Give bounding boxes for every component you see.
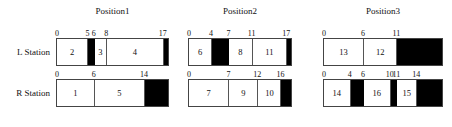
row-label-l-station: L Station [0, 47, 50, 58]
job-segment: 2 [57, 39, 88, 65]
gantt-bar: 234 [56, 38, 169, 66]
job-segment: 15 [397, 80, 417, 106]
job-label: 11 [265, 47, 273, 57]
axis-ticks: 0611 [323, 25, 443, 38]
idle-segment [351, 80, 364, 106]
gantt-bar: 7910 [188, 79, 292, 107]
job-segment: 4 [107, 39, 164, 65]
axis-tick-label: 0 [322, 70, 326, 79]
group-title: Position1 [56, 6, 169, 17]
axis-tick-label: 11 [392, 70, 400, 79]
axis-tick-label: 8 [104, 29, 108, 38]
job-segment: 3 [95, 39, 108, 65]
job-segment: 14 [324, 80, 351, 106]
axis-tick-label: 17 [159, 29, 167, 38]
group-title: Position3 [323, 6, 443, 17]
idle-segment [391, 80, 398, 106]
gantt-bar: 6811 [188, 38, 292, 66]
job-label: 10 [265, 88, 274, 98]
axis-ticks: 046101114 [323, 66, 443, 79]
axis-tick-label: 17 [282, 29, 290, 38]
axis-tick-label: 5 [85, 29, 89, 38]
gantt-bar: 15 [56, 79, 169, 107]
position-group-2: Position2047111768110712167910 [168, 0, 300, 127]
axis-tick-label: 11 [392, 29, 400, 38]
job-segment: 10 [258, 80, 281, 106]
timeline-r-station: 061415 [56, 66, 169, 107]
axis-tick-label: 7 [226, 29, 230, 38]
gantt-bar: 1312 [323, 38, 443, 66]
job-label: 6 [198, 47, 202, 57]
axis-tick-label: 12 [253, 70, 261, 79]
job-label: 12 [376, 47, 385, 57]
axis-tick-label: 4 [348, 70, 352, 79]
job-label: 14 [333, 88, 342, 98]
timeline-r-station: 0712167910 [188, 66, 292, 107]
position-group-1: Position1L Station056817234R Station0614… [0, 0, 177, 127]
axis-tick-label: 7 [226, 70, 230, 79]
job-segment: 13 [324, 39, 364, 65]
timeline-l-station: 056817234 [56, 25, 169, 66]
axis-tick-label: 0 [187, 70, 191, 79]
job-label: 16 [373, 88, 382, 98]
axis-tick-label: 0 [187, 29, 191, 38]
gantt-bar: 141615 [323, 79, 443, 107]
axis-tick-label: 16 [276, 70, 284, 79]
job-segment: 7 [189, 80, 229, 106]
job-segment: 1 [57, 80, 95, 106]
axis-tick-label: 14 [412, 70, 420, 79]
job-segment: 6 [189, 39, 212, 65]
axis-tick-label: 6 [361, 29, 365, 38]
position-group-3: Position306111312046101114141615 [296, 0, 451, 127]
job-segment: 12 [364, 39, 397, 65]
timeline-l-station: 06111312 [323, 25, 443, 66]
job-label: 9 [241, 88, 245, 98]
job-segment: 5 [95, 80, 145, 106]
axis-tick-label: 4 [209, 29, 213, 38]
axis-tick-label: 11 [248, 29, 256, 38]
axis-tick-label: 0 [55, 29, 59, 38]
job-segment: 16 [364, 80, 391, 106]
job-label: 13 [339, 47, 348, 57]
idle-segment [417, 80, 443, 106]
job-label: 15 [403, 88, 412, 98]
schedule-figure: Position1L Station056817234R Station0614… [0, 0, 452, 127]
axis-tick-label: 6 [361, 70, 365, 79]
job-label: 8 [238, 47, 242, 57]
row-label-r-station: R Station [0, 88, 50, 99]
job-label: 1 [73, 88, 77, 98]
idle-segment [397, 39, 443, 65]
axis-tick-label: 0 [322, 29, 326, 38]
idle-segment [212, 39, 229, 65]
group-title: Position2 [188, 6, 292, 17]
timeline-r-station: 046101114141615 [323, 66, 443, 107]
axis-ticks: 056817 [56, 25, 169, 38]
axis-tick-label: 14 [140, 70, 148, 79]
job-label: 5 [117, 88, 121, 98]
job-label: 2 [70, 47, 74, 57]
idle-segment [145, 80, 169, 106]
idle-segment [287, 39, 292, 65]
axis-ticks: 0614 [56, 66, 169, 79]
axis-ticks: 0471117 [188, 25, 292, 38]
axis-tick-label: 0 [55, 70, 59, 79]
idle-segment [281, 80, 292, 106]
job-segment: 11 [253, 39, 288, 65]
job-segment: 9 [229, 80, 258, 106]
job-label: 7 [207, 88, 211, 98]
job-segment: 8 [229, 39, 252, 65]
job-label: 4 [133, 47, 137, 57]
job-label: 3 [98, 47, 102, 57]
timeline-l-station: 04711176811 [188, 25, 292, 66]
axis-ticks: 071216 [188, 66, 292, 79]
axis-tick-label: 6 [92, 70, 96, 79]
axis-tick-label: 6 [92, 29, 96, 38]
